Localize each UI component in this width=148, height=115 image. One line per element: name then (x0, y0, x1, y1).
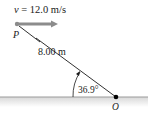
angle-arrowhead-icon (76, 71, 80, 76)
point-o-marker (114, 95, 119, 100)
velocity-label: v = 12.0 m/s (14, 4, 66, 15)
ground-surface (0, 97, 148, 107)
point-p-marker (15, 22, 19, 26)
velocity-arrowhead-icon (51, 21, 58, 28)
point-o-label: O (112, 102, 119, 112)
distance-label: 8.00 m (38, 46, 66, 57)
velocity-value: = 12.0 m/s (19, 4, 66, 15)
projectile-diagram: v = 12.0 m/s P 8.00 m 36.9° O (0, 0, 148, 115)
point-p-label: P (12, 29, 19, 40)
angle-label: 36.9° (78, 85, 99, 95)
distance-line-upper (19, 26, 40, 42)
